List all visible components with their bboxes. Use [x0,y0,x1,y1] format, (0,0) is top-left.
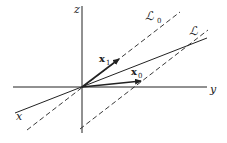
diagram-canvas: z y x ℒ 0 ℒ x 1 x 0 [0,0,227,143]
y-axis-label: y [209,83,217,96]
x-axis-label: x [16,110,23,123]
line-L-label: ℒ [189,24,198,38]
vector-x1-subscript: 1 [106,59,110,67]
z-axis-label: z [73,3,80,16]
vector-x0-label: x [131,66,138,77]
line-L0-subscript: 0 [157,17,161,25]
vector-x0 [82,81,141,87]
line-L [80,30,208,129]
vector-x0-subscript: 0 [138,72,142,80]
line-L0-label: ℒ [145,9,154,23]
x-axis [15,38,207,113]
vector-x1-label: x [99,53,106,64]
